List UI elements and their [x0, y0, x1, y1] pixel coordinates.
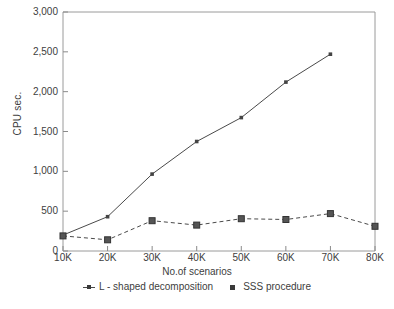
y-tick-label: 3,000	[0, 6, 58, 17]
data-point-marker	[284, 80, 288, 84]
data-point-marker	[327, 211, 333, 217]
chart-figure: CPU sec. 05001,0001,5002,0002,5003,000 1…	[0, 0, 394, 309]
x-axis-title: No.of scenarios	[0, 266, 394, 277]
series-line-2	[63, 214, 375, 240]
y-axis-title: CPU sec.	[12, 69, 23, 159]
chart-legend: L - shaped decomposition SSS procedure	[0, 282, 394, 292]
x-tick-label: 30K	[132, 252, 172, 263]
x-tick-label: 80K	[355, 252, 394, 263]
y-tick-label: 2,000	[0, 86, 58, 97]
x-tick-label: 50K	[221, 252, 261, 263]
data-point-marker	[372, 223, 378, 229]
data-point-marker	[60, 233, 66, 239]
data-point-marker	[329, 52, 333, 56]
square-marker-icon	[227, 283, 239, 292]
legend-label-sss: SSS procedure	[243, 282, 311, 292]
data-point-marker	[283, 217, 289, 223]
y-axis-ticks	[63, 12, 68, 251]
data-point-marker	[240, 116, 244, 120]
legend-label-l-shaped: L - shaped decomposition	[99, 282, 213, 292]
x-axis-ticks	[63, 246, 375, 251]
series-line-1	[63, 54, 330, 235]
data-point-marker	[194, 222, 200, 228]
data-point-marker	[238, 216, 244, 222]
x-tick-label: 60K	[266, 252, 306, 263]
series-markers	[60, 52, 378, 242]
x-tick-label: 40K	[177, 252, 217, 263]
data-point-marker	[149, 218, 155, 224]
legend-entry-sss[interactable]: SSS procedure	[227, 282, 311, 292]
data-point-marker	[106, 215, 110, 219]
legend-entry-l-shaped[interactable]: L - shaped decomposition	[83, 282, 213, 292]
dot-line-marker-icon	[83, 283, 95, 292]
x-tick-label: 10K	[43, 252, 83, 263]
y-tick-label: 1,500	[0, 126, 58, 137]
data-point-marker	[195, 140, 199, 144]
y-tick-label: 1,000	[0, 165, 58, 176]
data-point-marker	[105, 237, 111, 243]
data-point-marker	[150, 172, 154, 176]
y-tick-label: 500	[0, 205, 58, 216]
y-tick-label: 2,500	[0, 46, 58, 57]
x-tick-label: 70K	[310, 252, 350, 263]
x-tick-label: 20K	[88, 252, 128, 263]
